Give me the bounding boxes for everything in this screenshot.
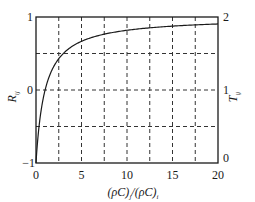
- x-tick-label: 5: [79, 168, 85, 182]
- y-right-tick-label: 1: [223, 83, 229, 97]
- x-tick-label: 10: [121, 168, 133, 182]
- y-left-axis-label: Rij: [5, 91, 21, 103]
- y-left-tick-label: −1: [22, 156, 35, 170]
- x-axis-label: (ρC)j/(ρC)i: [108, 185, 159, 201]
- chart: 0 5 10 15 20 1 0 −1 2 1 0 Rij Tij (ρC)j/…: [0, 0, 255, 202]
- svg-text:Rij: Rij: [5, 91, 21, 103]
- y-right-tick-label: 0: [223, 151, 229, 165]
- data-line: [36, 24, 218, 163]
- y-left-tick-label: 1: [27, 10, 33, 24]
- x-tick-label: 15: [167, 168, 179, 182]
- grid-lines: [36, 17, 218, 163]
- x-tick-label: 0: [33, 168, 39, 182]
- y-left-tick-label: 0: [27, 83, 33, 97]
- y-right-tick-label: 2: [223, 10, 229, 24]
- x-tick-label: 20: [212, 168, 224, 182]
